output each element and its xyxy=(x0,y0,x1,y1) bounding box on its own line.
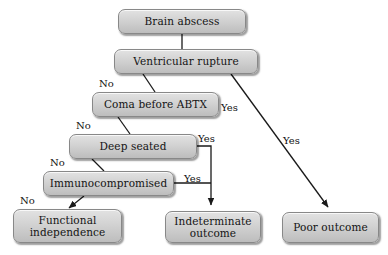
node-coma-before-abtx[interactable]: Coma before ABTX xyxy=(92,92,219,117)
node-poor-outcome[interactable]: Poor outcome xyxy=(282,212,379,243)
edge-label-no-coma: No xyxy=(99,78,114,89)
edge-immuno-no-to-functional xyxy=(69,196,84,208)
node-deep-seated-label: Deep seated xyxy=(95,140,170,153)
edge-label-no-functional: No xyxy=(20,195,35,206)
edge-label-yes-ventricular: Yes xyxy=(221,102,238,113)
node-ventricular-rupture-label: Ventricular rupture xyxy=(129,55,242,68)
edge-coma-no-to-deep xyxy=(118,117,130,134)
node-ventricular-rupture[interactable]: Ventricular rupture xyxy=(114,49,258,74)
edge-label-yes-deep-seated: Yes xyxy=(184,173,201,184)
node-functional-independence[interactable]: Functional independence xyxy=(13,209,122,243)
node-coma-before-abtx-label: Coma before ABTX xyxy=(100,98,211,111)
edge-rupture-yes-to-poor xyxy=(231,74,328,207)
node-immunocompromised-label: Immunocompromised xyxy=(46,177,171,190)
node-poor-outcome-label: Poor outcome xyxy=(289,221,372,234)
node-functional-independence-label: Functional independence xyxy=(26,214,110,239)
edge-label-yes-coma: Yes xyxy=(198,133,215,144)
node-brain-abscess-label: Brain abscess xyxy=(141,15,224,28)
node-immunocompromised[interactable]: Immunocompromised xyxy=(43,171,174,196)
node-brain-abscess[interactable]: Brain abscess xyxy=(118,9,246,34)
edge-deep-no-to-immuno xyxy=(92,159,104,171)
edge-rupture-no-to-coma xyxy=(143,74,155,92)
node-deep-seated[interactable]: Deep seated xyxy=(69,134,197,159)
node-indeterminate-outcome-label: Indeterminate outcome xyxy=(170,215,255,240)
node-indeterminate-outcome[interactable]: Indeterminate outcome xyxy=(165,211,261,243)
flowchart-canvas: Brain abscess Ventricular rupture Coma b… xyxy=(0,0,388,255)
edge-label-yes-poor-outcome: Yes xyxy=(283,135,300,146)
edge-label-no-deep-seated: No xyxy=(76,120,91,131)
edge-label-no-immunocompromised: No xyxy=(50,157,65,168)
